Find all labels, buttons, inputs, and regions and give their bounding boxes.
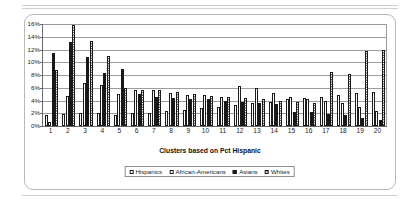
y-axis-label: 14%: [28, 34, 40, 40]
x-axis-tick-label: 19: [352, 128, 369, 135]
x-axis-tick-label: 2: [59, 128, 76, 135]
legend-item: Asians: [233, 169, 258, 175]
y-axis-label: 0%: [31, 123, 40, 129]
bar: [193, 94, 196, 126]
bar-group: [129, 24, 146, 126]
bar: [313, 103, 316, 126]
x-axis-tick-label: 5: [111, 128, 128, 135]
bar-group: [112, 24, 129, 126]
x-axis-tick-label: 10: [197, 128, 214, 135]
bar-group: [249, 24, 266, 126]
bar: [262, 99, 265, 126]
bar-group: [318, 24, 335, 126]
bar: [176, 92, 179, 126]
bar: [330, 72, 333, 126]
y-axis-label: 8%: [31, 72, 40, 78]
bar-group: [335, 24, 352, 126]
bar: [124, 88, 127, 126]
bar-groups: [43, 24, 387, 126]
bar-group: [181, 24, 198, 126]
bar: [210, 96, 213, 126]
bar-group: [95, 24, 112, 126]
bar-group: [284, 24, 301, 126]
bar: [158, 90, 161, 126]
x-axis-tick-label: 3: [76, 128, 93, 135]
x-axis-tick-label: 1: [42, 128, 59, 135]
bar-group: [267, 24, 284, 126]
bar: [90, 41, 93, 126]
bar: [72, 25, 75, 126]
y-axis-label: 16%: [28, 21, 40, 27]
divider-top-2: [22, 8, 398, 9]
bar: [227, 97, 230, 126]
x-axis-tick-labels: 1234567891011121314151617181920: [42, 128, 386, 135]
y-axis-label: 12%: [28, 46, 40, 52]
y-axis-label: 6%: [31, 85, 40, 91]
bar-group: [301, 24, 318, 126]
legend-swatch-icon: [265, 170, 269, 174]
bar-group: [353, 24, 370, 126]
y-axis-label: 4%: [31, 97, 40, 103]
x-axis-tick-label: 14: [266, 128, 283, 135]
bar-group: [163, 24, 180, 126]
x-axis-tick-label: 15: [283, 128, 300, 135]
plot-area: [42, 24, 387, 127]
bar-group: [43, 24, 60, 126]
x-axis-tick-label: 17: [317, 128, 334, 135]
x-axis-tick-label: 7: [145, 128, 162, 135]
legend-label: Whites: [271, 169, 290, 175]
bar-group: [370, 24, 387, 126]
x-axis-tick-label: 18: [334, 128, 351, 135]
bar-group: [146, 24, 163, 126]
bar-group: [60, 24, 77, 126]
bar: [244, 98, 247, 126]
bar-group: [77, 24, 94, 126]
y-axis-label: 10%: [28, 59, 40, 65]
y-axis-label: 2%: [31, 110, 40, 116]
x-axis-tick-label: 11: [214, 128, 231, 135]
x-axis-tick-label: 16: [300, 128, 317, 135]
x-axis-tick-label: 6: [128, 128, 145, 135]
bar-group: [198, 24, 215, 126]
bar: [107, 56, 110, 126]
chart-container: 0%2%4%6%8%10%12%14%16% 12345678910111213…: [0, 0, 419, 202]
x-axis-tick-label: 9: [180, 128, 197, 135]
bar: [382, 50, 385, 126]
legend-swatch-icon: [129, 170, 133, 174]
bar: [141, 90, 144, 126]
x-axis-tick-label: 4: [94, 128, 111, 135]
legend-item: Hispanics: [129, 169, 162, 175]
bar-group: [232, 24, 249, 126]
legend-label: African-Americans: [175, 169, 226, 175]
bar: [365, 51, 368, 126]
x-axis-tick-label: 20: [369, 128, 386, 135]
bar: [55, 70, 58, 126]
legend-swatch-icon: [233, 170, 237, 174]
chart-legend: HispanicsAfrican-AmericansAsiansWhites: [124, 166, 295, 177]
x-axis-title: Clusters based on Pct Hispanic: [24, 148, 396, 155]
x-axis-tick-label: 12: [231, 128, 248, 135]
bar: [279, 101, 282, 127]
y-axis: 0%2%4%6%8%10%12%14%16%: [18, 24, 40, 126]
bar: [296, 102, 299, 126]
legend-label: Asians: [239, 169, 258, 175]
legend-item: African-Americans: [169, 169, 226, 175]
x-axis-tick-label: 13: [248, 128, 265, 135]
divider-bottom: [22, 195, 398, 196]
legend-label: Hispanics: [135, 169, 162, 175]
legend-item: Whites: [265, 169, 290, 175]
x-axis-tick-label: 8: [162, 128, 179, 135]
divider-top-1: [22, 5, 398, 6]
bar-group: [215, 24, 232, 126]
bar: [348, 74, 351, 126]
legend-swatch-icon: [169, 170, 173, 174]
